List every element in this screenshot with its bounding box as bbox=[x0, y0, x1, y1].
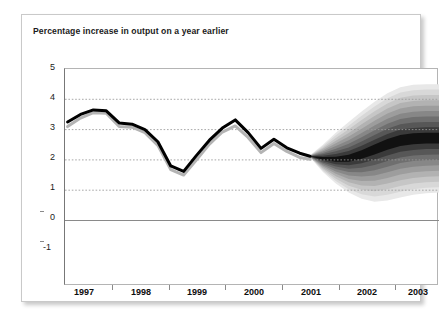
screenshot-root: Percentage increase in output on a year … bbox=[0, 0, 443, 322]
y-axis-tick-minus1 bbox=[40, 241, 44, 242]
y-tick-label-2: 2 bbox=[29, 152, 55, 162]
plot-area bbox=[64, 68, 438, 255]
y-tick-label-4: 4 bbox=[29, 92, 55, 102]
x-axis-tick-4 bbox=[282, 285, 283, 290]
y-tick-label-3: 3 bbox=[29, 122, 55, 132]
chart-figure-card: Percentage increase in output on a year … bbox=[21, 14, 421, 302]
x-tick-label-1997: 1997 bbox=[58, 287, 110, 298]
x-tick-label-2001: 2001 bbox=[285, 287, 337, 298]
x-axis-tick-2 bbox=[169, 285, 170, 290]
x-tick-label-1999: 1999 bbox=[171, 287, 223, 298]
chart-title: Percentage increase in output on a year … bbox=[33, 26, 229, 36]
x-axis-tick-3 bbox=[225, 285, 226, 290]
x-tick-label-2003: 2003 bbox=[392, 287, 443, 298]
x-axis-tick-5 bbox=[339, 285, 340, 290]
y-tick-label-0: 0 bbox=[29, 212, 55, 222]
y-axis-tick-0 bbox=[40, 211, 44, 212]
x-tick-label-1998: 1998 bbox=[115, 287, 167, 298]
fan-chart-bands bbox=[310, 84, 439, 202]
chart-canvas bbox=[65, 69, 439, 256]
series-line-black bbox=[68, 110, 310, 172]
x-axis-tick-1 bbox=[112, 285, 113, 290]
y-tick-label-1: 1 bbox=[29, 182, 55, 192]
x-tick-label-2002: 2002 bbox=[341, 287, 393, 298]
y-tick-label-minus1: -1 bbox=[25, 242, 51, 252]
y-tick-label-5: 5 bbox=[29, 62, 55, 72]
plot-lower-extension bbox=[64, 255, 438, 285]
x-tick-label-2000: 2000 bbox=[228, 287, 280, 298]
